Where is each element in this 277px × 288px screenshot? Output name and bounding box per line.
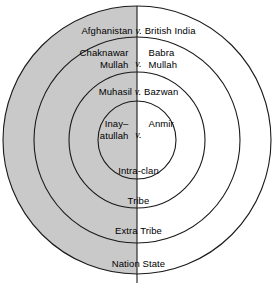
concentric-conflict-diagram: Afghanistan v. British India Chaknawar M… xyxy=(0,0,277,288)
diagram-canvas xyxy=(0,0,277,288)
